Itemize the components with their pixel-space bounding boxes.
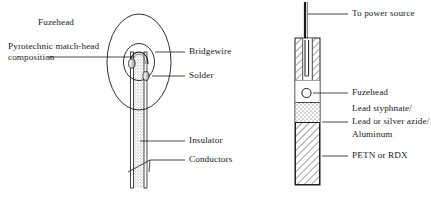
label-main-charge: PETN or RDX — [352, 150, 408, 162]
right-diagram-art — [295, 2, 348, 185]
label-fuzehead-left: Fuzehead — [38, 17, 74, 29]
conductor-left — [131, 52, 134, 188]
label-power-source: To power source — [352, 8, 415, 20]
label-explosive-line2: Lead or silver azide/ — [352, 116, 429, 128]
main-charge-band — [296, 123, 320, 185]
label-pyrotechnic-line2: composition — [8, 52, 55, 64]
insulator-body — [133, 52, 144, 188]
label-explosive-line3: Aluminum — [352, 129, 393, 141]
label-insulator: Insulator — [189, 135, 223, 147]
leader-conductors-b — [149, 160, 150, 172]
plug-hatch-right — [312, 39, 319, 81]
label-explosive-line1: Lead styphnate/ — [352, 103, 412, 115]
solder-blob-right — [143, 72, 149, 81]
plug-channel — [303, 39, 313, 81]
solder-blob-left — [129, 59, 136, 68]
plug-hatch-left — [296, 39, 303, 81]
label-solder: Solder — [189, 70, 214, 82]
label-bridgewire: Bridgewire — [189, 46, 231, 58]
detonator-figure: Fuzehead Pyrotechnic match-head composit… — [0, 0, 431, 198]
label-conductors: Conductors — [189, 154, 232, 166]
figure-artwork — [0, 0, 431, 198]
fuzehead-bead — [302, 88, 311, 97]
label-fuzehead-right: Fuzehead — [352, 87, 388, 99]
label-pyrotechnic-line1: Pyrotechnic match-head — [8, 41, 99, 53]
primary-explosive-band — [296, 103, 320, 123]
